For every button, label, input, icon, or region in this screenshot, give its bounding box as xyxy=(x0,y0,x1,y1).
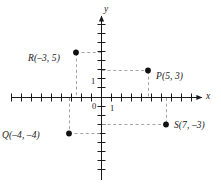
point-Q xyxy=(66,131,72,137)
coordinate-plane-svg xyxy=(0,0,221,192)
point-label-Q: Q(–4, –4) xyxy=(2,130,40,140)
point-label-R: R(–3, 5) xyxy=(28,53,60,63)
plotted-points xyxy=(66,50,169,137)
point-R xyxy=(73,50,79,56)
coordinate-plane-figure: R(–3, 5) P(5, 3) Q(–4, –4) S(7, –3) y x … xyxy=(0,0,221,192)
point-label-S: S(7, –3) xyxy=(174,120,205,130)
x-axis-label: x xyxy=(206,91,210,101)
y-axis-label: y xyxy=(104,4,108,14)
guide-lines xyxy=(69,53,167,134)
origin-label: 0 xyxy=(92,101,96,111)
point-S xyxy=(163,122,169,128)
point-label-P: P(5, 3) xyxy=(156,71,183,81)
y-unit-label: 1 xyxy=(91,76,95,86)
point-P xyxy=(145,68,151,74)
axis-lines xyxy=(11,16,202,180)
x-unit-label: 1 xyxy=(110,103,114,113)
